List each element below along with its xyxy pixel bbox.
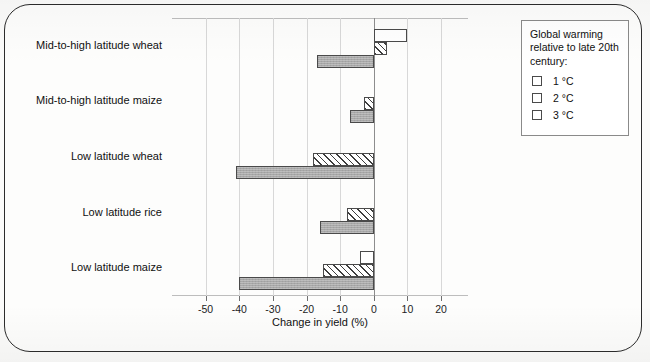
bar-2C-0 <box>374 42 387 55</box>
bar-3C-3 <box>320 221 374 234</box>
category-row: Low latitude maize <box>172 240 468 296</box>
bar-2C-3 <box>347 208 374 221</box>
grey-swatch-icon <box>532 110 542 120</box>
bar-2C-4 <box>323 264 373 277</box>
category-row: Low latitude rice <box>172 185 468 241</box>
bar-3C-4 <box>239 277 374 290</box>
bar-3C-2 <box>236 166 374 179</box>
category-label: Low latitude wheat <box>71 151 162 162</box>
category-label: Mid-to-high latitude wheat <box>36 40 162 51</box>
bar-2C-1 <box>364 97 374 110</box>
tick--30 <box>273 296 274 301</box>
category-label: Low latitude maize <box>71 262 162 273</box>
legend-label: 2 °C <box>553 92 574 104</box>
category-label: Mid-to-high latitude maize <box>36 95 162 106</box>
tick-10 <box>407 296 408 301</box>
legend-title: Global warming relative to late 20th cen… <box>530 28 620 68</box>
category-row: Mid-to-high latitude maize <box>172 74 468 130</box>
tick--20 <box>307 296 308 301</box>
tick-label-20: 20 <box>435 303 447 315</box>
legend-label: 3 °C <box>553 109 574 121</box>
tick-label--10: -10 <box>333 303 348 315</box>
bar-3C-1 <box>350 110 374 123</box>
bar-1C-4 <box>360 251 373 264</box>
x-axis-title: Change in yield (%) <box>172 316 468 328</box>
legend-item: 2 °C <box>532 92 620 104</box>
tick-0 <box>374 296 375 301</box>
tick--10 <box>340 296 341 301</box>
tick-label-10: 10 <box>402 303 414 315</box>
tick-label--50: -50 <box>198 303 213 315</box>
legend-item: 3 °C <box>532 109 620 121</box>
bar-1C-0 <box>374 29 408 42</box>
tick-label--20: -20 <box>299 303 314 315</box>
figure-root: -50-40-30-20-1001020 Mid-to-high latitud… <box>0 0 650 362</box>
category-label: Low latitude rice <box>83 207 163 218</box>
tick-label--30: -30 <box>265 303 280 315</box>
bar-2C-2 <box>313 153 374 166</box>
bar-3C-0 <box>317 55 374 68</box>
category-row: Low latitude wheat <box>172 129 468 185</box>
tick-label-0: 0 <box>371 303 377 315</box>
category-row: Mid-to-high latitude wheat <box>172 18 468 74</box>
legend-item: 1 °C <box>532 75 620 87</box>
legend: Global warming relative to late 20th cen… <box>521 20 629 136</box>
tick-label--40: -40 <box>232 303 247 315</box>
legend-items: 1 °C2 °C3 °C <box>530 75 620 121</box>
hatched-swatch-icon <box>532 93 542 103</box>
tick-20 <box>441 296 442 301</box>
empty-swatch-icon <box>532 76 542 86</box>
tick--50 <box>206 296 207 301</box>
plot-area: -50-40-30-20-1001020 Mid-to-high latitud… <box>172 18 468 296</box>
legend-label: 1 °C <box>553 75 574 87</box>
tick--40 <box>239 296 240 301</box>
